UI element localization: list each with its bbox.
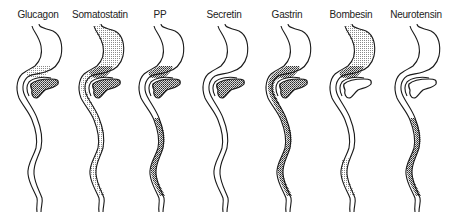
gut-figure-secretin: Secretin — [191, 0, 257, 218]
gut-figure-pp: PP — [127, 0, 193, 218]
stomach-body-region — [154, 24, 183, 68]
stomach-body-region — [32, 24, 61, 68]
stomach-outline — [25, 26, 42, 72]
gut-illustration — [254, 0, 320, 218]
stomach-outline — [403, 26, 420, 72]
stomach-body-region — [281, 24, 310, 68]
stomach-antrum-region — [27, 66, 51, 78]
stomach-outline — [147, 26, 164, 72]
gut-illustration — [127, 0, 193, 218]
gut-figure-neurotensin: Neurotensin — [383, 0, 449, 218]
pancreas — [31, 79, 59, 98]
pancreas — [93, 79, 121, 98]
stomach-outline — [211, 26, 228, 72]
gut-illustration — [5, 0, 71, 218]
pancreas — [409, 79, 437, 98]
gut-figure-somatostatin: Somatostatin — [67, 0, 133, 218]
stomach-body-region — [218, 24, 247, 68]
pancreas — [153, 79, 181, 98]
stomach-antrum-region — [213, 66, 237, 78]
gut-figure-gastrin: Gastrin — [254, 0, 320, 218]
pancreas — [344, 79, 372, 98]
stomach-antrum-region — [89, 66, 113, 78]
pancreas — [217, 79, 245, 98]
stomach-outline-outer — [407, 24, 440, 76]
stomach-outline-outer — [215, 24, 248, 76]
stomach-antrum-region — [276, 66, 300, 78]
stomach-antrum-region — [149, 66, 173, 78]
stomach-antrum-region — [405, 66, 429, 78]
stomach-outline — [274, 26, 291, 72]
gut-illustration — [318, 0, 384, 218]
gut-figure-bombesin: Bombesin — [318, 0, 384, 218]
gut-illustration — [191, 0, 257, 218]
stomach-body-region — [410, 24, 439, 68]
gut-figure-glucagon: Glucagon — [5, 0, 71, 218]
gut-illustration — [67, 0, 133, 218]
stomach-antrum-region — [340, 66, 364, 78]
stomach-body-region — [345, 24, 374, 68]
gut-illustration — [383, 0, 449, 218]
pancreas — [280, 79, 308, 98]
stomach-body-region — [94, 24, 123, 68]
